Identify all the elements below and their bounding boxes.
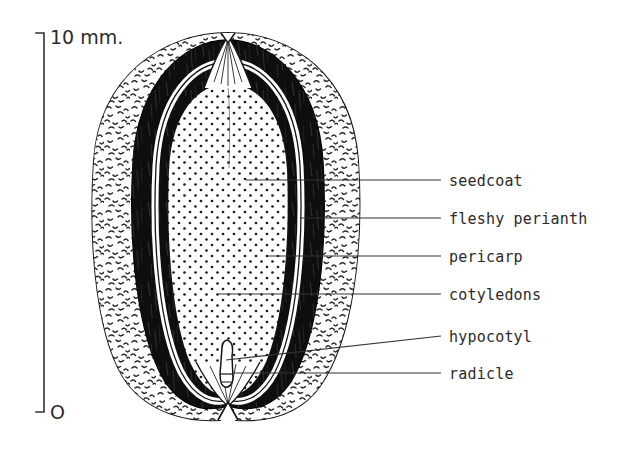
scale-bar-bottom-label: O [50,401,65,423]
seed-diagram-figure: 10 mm. O [0,0,632,452]
label-seedcoat: seedcoat [449,172,523,190]
seed-body [88,30,368,425]
label-fleshy-perianth: fleshy perianth [449,210,587,228]
label-pericarp: pericarp [449,248,523,266]
label-hypocotyl: hypocotyl [449,328,532,346]
seed-diagram-canvas: 10 mm. O [0,0,632,452]
hypocotyl-shape [220,340,233,387]
embryo-axis [220,340,233,387]
label-cotyledons: cotyledons [449,286,541,304]
scale-bar-top-label: 10 mm. [50,26,123,48]
label-radicle: radicle [449,365,514,383]
